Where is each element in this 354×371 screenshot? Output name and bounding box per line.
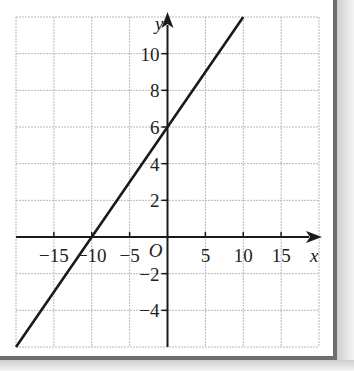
y-tick-label: 6: [150, 117, 160, 138]
y-tick-label: 2: [150, 190, 160, 211]
x-tick-label: −10: [77, 245, 107, 266]
x-axis-label: x: [309, 245, 319, 266]
y-tick-label: 10: [141, 44, 160, 65]
y-tick-label: −2: [139, 264, 159, 285]
x-tick-label: 5: [201, 245, 211, 266]
x-tick-label: −15: [39, 245, 69, 266]
axes: [16, 12, 322, 347]
axis-labels: −15−10−551015108642−2−4yxO: [39, 13, 319, 321]
x-tick-label: 15: [272, 245, 291, 266]
y-axis-label: y: [153, 13, 164, 34]
y-tick-label: 4: [150, 154, 160, 175]
y-tick-label: 8: [150, 80, 160, 101]
line-chart: −15−10−551015108642−2−4yxO: [0, 0, 354, 371]
origin-label: O: [149, 240, 163, 261]
x-tick-label: 10: [234, 245, 253, 266]
y-tick-label: −4: [139, 300, 160, 321]
x-tick-label: −5: [120, 245, 140, 266]
